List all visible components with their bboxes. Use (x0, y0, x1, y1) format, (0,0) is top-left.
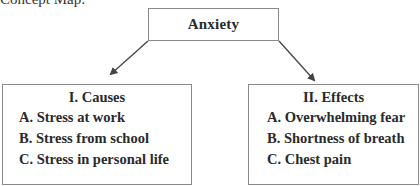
branch-node-causes: I. Causes A. Stress at work B. Stress fr… (2, 84, 192, 185)
diagram-caption: Concept Map: (0, 0, 85, 8)
list-item: C. Stress in personal life (19, 149, 191, 170)
effects-list: A. Overwhelming fear B. Shortness of bre… (249, 107, 418, 170)
list-item: B. Shortness of breath (267, 128, 418, 149)
causes-list: A. Stress at work B. Stress from school … (3, 107, 191, 170)
list-item: C. Chest pain (267, 149, 418, 170)
arrow-to-causes (111, 41, 148, 74)
list-item: A. Stress at work (19, 107, 191, 128)
root-node-anxiety: Anxiety (148, 8, 279, 41)
arrow-to-effects (279, 41, 314, 80)
root-node-label: Anxiety (188, 16, 239, 33)
list-item: B. Stress from school (19, 128, 191, 149)
branch-node-effects: II. Effects A. Overwhelming fear B. Shor… (248, 84, 419, 185)
branch-title-effects: II. Effects (249, 88, 418, 107)
list-item: A. Overwhelming fear (267, 107, 418, 128)
branch-title-causes: I. Causes (3, 88, 191, 107)
